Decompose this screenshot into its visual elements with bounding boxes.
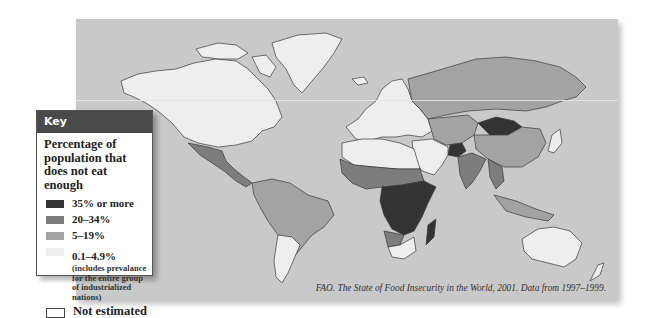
region-russia [408, 57, 586, 119]
legend-item-20-34: 20–34% [37, 213, 152, 226]
map-legend: Key Percentage of population that does n… [36, 110, 153, 276]
region-india [458, 153, 486, 189]
legend-item-text: 0.1–4.9% (includes prevalance for the en… [72, 245, 152, 302]
region-iceland [352, 77, 368, 85]
legend-item-35-plus: 35% or more [37, 197, 152, 210]
swatch-20-34 [46, 216, 64, 224]
swatch-not-estimated [46, 308, 65, 318]
legend-label: 5–19% [72, 229, 105, 242]
legend-header: Key [37, 111, 152, 133]
legend-item-not-estimated: Not estimated [37, 305, 152, 318]
legend-label: Not estimated [73, 305, 147, 318]
map-graphic [76, 19, 618, 300]
region-indonesia [494, 195, 554, 221]
legend-label: 20–34% [72, 213, 111, 226]
region-central-america [188, 143, 252, 187]
swatch-35-plus [46, 200, 64, 208]
source-citation: FAO. The State of Food Insecurity in the… [316, 283, 606, 293]
region-new-zealand [590, 263, 604, 281]
legend-note: (includes prevalance for the entire grou… [72, 264, 152, 302]
region-argentina-chile [274, 235, 300, 283]
legend-title: Percentage of population that does not e… [37, 133, 152, 194]
legend-item-0-1-4-9: 0.1–4.9% (includes prevalance for the en… [37, 245, 152, 302]
legend-item-5-19: 5–19% [37, 229, 152, 242]
region-canadian-islands [196, 43, 248, 59]
world-map: FAO. The State of Food Insecurity in the… [76, 19, 618, 300]
swatch-5-19 [46, 232, 64, 240]
region-australia [522, 227, 582, 267]
legend-label: 0.1–4.9% [72, 250, 116, 262]
region-afghanistan [448, 143, 466, 157]
region-japan [548, 129, 562, 153]
fold-seam [76, 100, 618, 101]
region-baffin [252, 55, 276, 77]
swatch-0-1-4-9 [46, 248, 64, 256]
legend-label: 35% or more [72, 197, 134, 210]
region-greenland [272, 33, 342, 93]
region-madagascar [426, 219, 436, 245]
